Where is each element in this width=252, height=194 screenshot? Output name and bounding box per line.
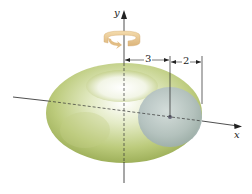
rotation-arrow-icon	[104, 31, 140, 49]
dim-3-arrow-left-icon	[125, 58, 130, 62]
dimension-3-label: 3	[144, 54, 152, 64]
y-axis-label: y	[114, 8, 120, 18]
torus-diagram	[0, 0, 252, 194]
torus-shadow-left	[60, 112, 110, 148]
x-axis-back	[13, 97, 48, 101]
x-axis-front	[202, 121, 238, 126]
dimension-2-label: 2	[182, 56, 190, 66]
y-axis-arrow-icon	[121, 10, 127, 19]
x-axis-label: x	[234, 130, 240, 140]
dim-2-arrow-left-icon	[171, 60, 176, 64]
dim-2-arrow-right-icon	[196, 60, 201, 64]
dim-3-arrow-right-icon	[164, 58, 169, 62]
